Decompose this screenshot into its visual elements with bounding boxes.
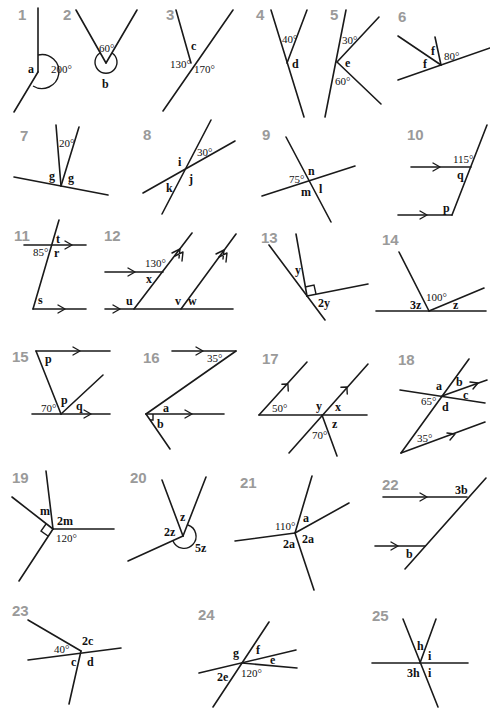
angle-label-x: x	[335, 400, 341, 414]
angle-label-i: i	[428, 666, 432, 680]
problem-7: 7 20° g g	[14, 125, 108, 195]
angle-label-b: b	[102, 77, 109, 91]
problem-number: 7	[20, 127, 28, 144]
angle-label-n: n	[308, 164, 315, 178]
angle-label-q: q	[457, 168, 464, 182]
angle-value: 30°	[342, 34, 357, 46]
line	[269, 245, 325, 320]
angle-label-v: v	[175, 294, 181, 308]
angle-value: 130°	[170, 58, 191, 70]
problem-11: 11 t 85° r s	[14, 220, 86, 313]
angle-label-g: g	[233, 646, 239, 660]
transversal	[405, 478, 486, 569]
problem-20: 20 z 2z 5z	[128, 469, 207, 561]
angle-label-x: x	[146, 272, 152, 286]
angle-label-p: p	[443, 201, 450, 215]
angle-label-d: d	[87, 655, 94, 669]
angle-label-5z: 5z	[195, 541, 207, 555]
problem-22: 22 3b b	[375, 476, 486, 569]
ray	[46, 471, 53, 529]
problem-23: 23 40° 2c c d	[12, 602, 121, 704]
problem-25: 25 h i 3h i	[372, 607, 468, 707]
angle-label-a: a	[163, 401, 169, 415]
angle-label-d: d	[442, 400, 449, 414]
ray	[19, 529, 53, 581]
angle-label-p: p	[61, 393, 68, 407]
angle-label-3h: 3h	[407, 666, 420, 680]
problem-number: 11	[14, 227, 30, 244]
ray	[106, 10, 137, 63]
angle-label-b: b	[157, 417, 164, 431]
problem-number: 24	[198, 606, 215, 623]
angle-value: 130°	[145, 257, 166, 269]
angle-value: 100°	[426, 291, 447, 303]
angle-label-m: m	[301, 185, 311, 199]
parallel-transversal	[134, 233, 192, 309]
ray	[56, 125, 61, 186]
angle-value: 80°	[444, 50, 459, 62]
angle-label-w: w	[188, 294, 197, 308]
angle-label-k: k	[166, 181, 173, 195]
double-arrow-icon	[172, 249, 183, 261]
problem-2: 2 60° b	[63, 6, 137, 91]
angle-label-2a: 2a	[302, 532, 314, 546]
parallel-arrow-icon	[447, 433, 455, 440]
angle-label-a: a	[303, 511, 309, 525]
angle-value: 85°	[33, 246, 48, 258]
problem-5: 5 30° e 60°	[325, 6, 381, 117]
angle-value: 70°	[312, 429, 327, 441]
angle-label-y: y	[295, 263, 301, 277]
angle-value: 50°	[272, 402, 287, 414]
problem-number: 21	[240, 474, 257, 491]
problem-number: 5	[330, 6, 338, 23]
problem-number: 16	[143, 349, 160, 366]
angle-value: 60°	[99, 42, 114, 54]
angle-value: 200°	[51, 63, 72, 75]
angle-label-f: f	[423, 57, 428, 71]
problem-14: 14 3z 100° z	[376, 231, 486, 312]
problem-13: 13 y 2y	[261, 229, 368, 320]
angle-label-j: j	[188, 172, 193, 186]
problem-number: 20	[130, 469, 147, 486]
angle-label-3b: 3b	[455, 483, 468, 497]
angle-value: 70°	[41, 402, 56, 414]
angle-label-f: f	[431, 44, 436, 58]
problem-4: 4 40° d	[256, 6, 307, 117]
angle-label-q: q	[76, 399, 83, 413]
angle-label-2c: 2c	[82, 634, 94, 648]
problem-number: 15	[12, 348, 29, 365]
problem-number: 12	[104, 227, 121, 244]
angle-label-h: h	[417, 639, 424, 653]
angle-label-2y: 2y	[318, 296, 330, 310]
angle-label-z: z	[453, 298, 459, 312]
angle-label-3z: 3z	[410, 298, 422, 312]
angle-value: 40°	[54, 643, 69, 655]
problem-number: 1	[18, 6, 26, 23]
angle-label-a: a	[436, 379, 442, 393]
problem-number: 8	[143, 126, 151, 143]
angle-value: 35°	[417, 432, 432, 444]
problem-number: 9	[262, 126, 270, 143]
angle-value: 35°	[207, 352, 222, 364]
problem-number: 6	[398, 8, 406, 25]
angle-label-e: e	[270, 653, 276, 667]
angle-label-2z: 2z	[164, 525, 176, 539]
angle-value: 65°	[421, 395, 436, 407]
angle-label-z: z	[332, 417, 338, 431]
angle-worksheet: 1 a 200° 2 60° b 3 c 130° 170° 4 40° d 5	[0, 0, 490, 715]
angle-label-d: d	[292, 57, 299, 71]
problem-number: 2	[63, 6, 71, 23]
problem-9: 9 75° n m l	[262, 126, 355, 222]
ray	[128, 536, 183, 561]
problem-number: 18	[398, 351, 415, 368]
angle-value: 120°	[56, 532, 77, 544]
problem-3: 3 c 130° 170°	[163, 6, 233, 111]
angle-value: 110°	[275, 520, 296, 532]
angle-label-z: z	[180, 510, 186, 524]
problem-number: 19	[12, 469, 29, 486]
angle-label-a: a	[28, 62, 34, 76]
angle-label-2e: 2e	[217, 670, 229, 684]
ray	[14, 72, 38, 112]
problem-6: 6 f f 80°	[398, 8, 490, 80]
angle-label-b: b	[456, 375, 463, 389]
